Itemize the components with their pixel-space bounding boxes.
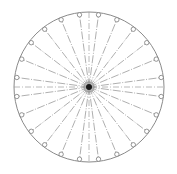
rim-marker — [77, 13, 81, 17]
hub-center — [86, 84, 92, 90]
spoke-wheel-diagram — [0, 0, 177, 174]
rim-marker — [96, 13, 100, 17]
rim-marker — [115, 152, 119, 156]
rim-marker — [59, 18, 63, 22]
rim-marker — [59, 152, 63, 156]
rim-marker — [145, 129, 149, 133]
rim-marker — [154, 57, 158, 61]
rim-marker — [145, 40, 149, 44]
rim-marker — [15, 94, 19, 98]
rim-marker — [159, 75, 163, 79]
rim-marker — [96, 157, 100, 161]
rim-marker — [20, 113, 24, 117]
rim-marker — [42, 27, 46, 31]
rim-marker — [159, 94, 163, 98]
rim-marker — [131, 143, 135, 147]
rim-marker — [131, 27, 135, 31]
rim-marker — [29, 40, 33, 44]
rim-marker — [154, 113, 158, 117]
rim-marker — [20, 57, 24, 61]
rim-marker — [29, 129, 33, 133]
rim-marker — [42, 143, 46, 147]
rim-marker — [115, 18, 119, 22]
rim-marker — [15, 75, 19, 79]
rim-marker — [77, 157, 81, 161]
